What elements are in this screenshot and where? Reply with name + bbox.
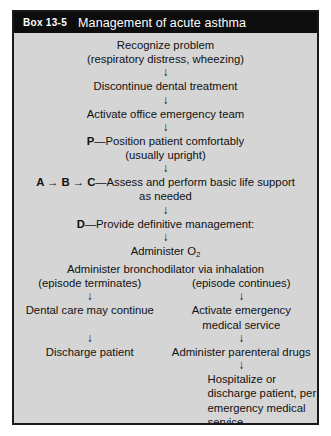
flow-step-activate-ems-line1: Activate emergency	[166, 303, 318, 317]
branch-conditions: (episode terminates) (episode continues)	[14, 276, 317, 290]
flow-step-activate-team: Activate office emergency team	[14, 107, 317, 121]
branch-columns: ↓ Dental care may continue ↓ Discharge p…	[14, 290, 317, 425]
step-letters-abc: A → B → C	[36, 176, 95, 188]
flow-step-dental-care-continue: Dental care may continue	[14, 303, 166, 317]
step-dash: —	[95, 176, 106, 188]
flow-step-recognize-problem: Recognize problem	[14, 38, 317, 52]
flow-step-parenteral-drugs: Administer parenteral drugs	[166, 345, 318, 359]
oxygen-subscript: 2	[196, 250, 200, 259]
info-box: Box 13-5 Management of acute asthma Reco…	[12, 10, 319, 425]
step-text: Provide definitive management:	[96, 218, 254, 230]
down-arrow-icon: ↓	[14, 66, 317, 79]
flow-note-symptoms: (respiratory distress, wheezing)	[14, 52, 317, 66]
flow-step-activate-ems-line2: medical service	[166, 318, 318, 332]
flow-step-administer-oxygen: Administer O2	[14, 244, 317, 262]
box-header: Box 13-5 Management of acute asthma	[14, 12, 317, 33]
box-number: Box 13-5	[23, 17, 67, 28]
down-arrow-icon: ↓	[14, 162, 317, 175]
flow-note-upright: (usually upright)	[14, 148, 317, 162]
flow-step-hospitalize-or-discharge: Hospitalize or discharge patient, per em…	[166, 372, 318, 425]
branch-left-column: ↓ Dental care may continue ↓ Discharge p…	[14, 290, 166, 425]
down-arrow-icon: ↓	[14, 204, 317, 217]
down-arrow-icon: ↓	[166, 359, 318, 372]
down-arrow-icon: ↓	[166, 332, 318, 345]
down-arrow-icon: ↓	[14, 121, 317, 134]
flow-step-position-patient: P—Position patient comfortably	[14, 134, 317, 148]
branch-left-condition-col: (episode terminates)	[14, 276, 166, 290]
down-arrow-icon: ↓	[14, 231, 317, 244]
flow-step-administer-bronchodilator: Administer bronchodilator via inhalation	[14, 262, 317, 276]
down-arrow-icon: ↓	[14, 290, 166, 303]
flowchart: Recognize problem (respiratory distress,…	[14, 33, 317, 425]
step-text: Assess and perform basic life support	[106, 176, 294, 188]
flow-step-abc-assess: A → B → C—Assess and perform basic life …	[14, 175, 317, 189]
flow-step-discharge-patient: Discharge patient	[14, 345, 166, 359]
branch-condition-continues: (episode continues)	[166, 276, 318, 290]
box-title: Management of acute asthma	[78, 16, 246, 30]
down-arrow-icon: ↓	[14, 332, 166, 345]
branch-right-column: ↓ Activate emergency medical service ↓ A…	[166, 290, 318, 425]
down-arrow-icon: ↓	[166, 290, 318, 303]
step-text: Administer O	[131, 245, 196, 257]
branch-condition-terminates: (episode terminates)	[14, 276, 166, 290]
step-dash: —	[94, 135, 105, 147]
step-text: Position patient comfortably	[105, 135, 244, 147]
flow-note-as-needed: as needed	[14, 189, 317, 203]
step-letter-d: D	[77, 218, 85, 230]
branch-right-condition-col: (episode continues)	[166, 276, 318, 290]
flow-step-definitive-management: D—Provide definitive management:	[14, 217, 317, 231]
step-dash: —	[85, 218, 96, 230]
flow-step-discontinue-treatment: Discontinue dental treatment	[14, 79, 317, 93]
down-arrow-icon: ↓	[14, 94, 317, 107]
